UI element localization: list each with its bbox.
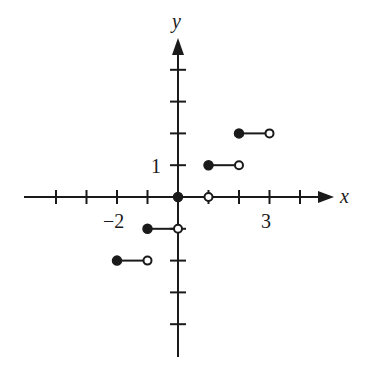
closed-dot [143,224,152,233]
y-axis-label: y [170,10,181,33]
x-axis-arrow-icon [318,191,334,203]
x-tick-label-3: 3 [261,210,271,232]
y-axis-arrow-icon [172,38,184,55]
closed-dot [204,161,213,170]
open-dot [235,161,243,169]
closed-dot [174,193,183,202]
step-segment [235,129,274,138]
closed-dot [113,256,122,265]
step-segment [143,224,182,233]
step-function-graph: x y −2 3 1 [0,0,365,383]
open-dot [144,257,152,265]
open-dot [205,193,213,201]
closed-dot [235,129,244,138]
step-segment [113,256,152,265]
x-tick-label-neg2: −2 [103,210,124,232]
open-dot [266,129,274,137]
y-tick-label-1: 1 [151,155,161,177]
x-axis-label: x [339,185,349,207]
open-dot [174,225,182,233]
step-segment [204,161,243,170]
